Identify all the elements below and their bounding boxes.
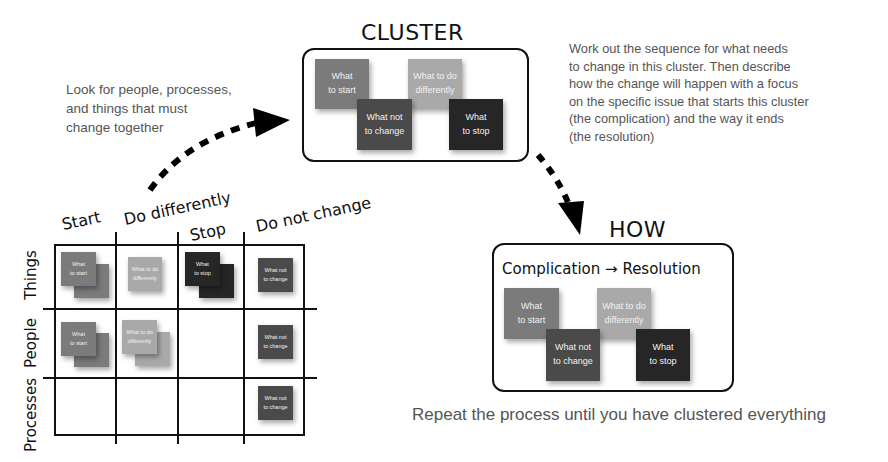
row-header-processes: Processes [22,375,40,455]
note-things-differently: What to do differently [128,257,162,291]
grid-line-vertical [243,232,245,444]
how-title: HOW [609,217,666,242]
grid-border-right [303,244,305,436]
row-header-people: People [22,318,40,368]
note-people-start: What to start [61,322,96,356]
grid-line-horizontal [43,308,317,310]
grid-border-bottom [54,434,305,436]
how-box: Complication → Resolution What to start … [492,243,734,392]
note-things-stop: What to stop [185,252,220,286]
row-header-things: Things [22,250,40,300]
grid-border-top [54,244,305,246]
note-things-start: What to start [61,252,96,286]
note-what-to-stop: What to stop [636,329,690,381]
note-things-not-change: What not to change [258,258,293,292]
note-processes-not-change: What not to change [258,386,293,420]
note-people-differently: What to do differently [122,320,157,354]
grid-line-horizontal [43,377,317,379]
note-what-not-to-change: What not to change [546,329,600,381]
note-people-not-change: What not to change [258,325,293,359]
grid-line-vertical [177,232,179,444]
grid-border-left [54,244,56,436]
how-subtitle: Complication → Resolution [502,260,701,278]
grid-line-vertical [115,232,117,444]
dashed-arrow-to-how-icon [0,0,888,462]
